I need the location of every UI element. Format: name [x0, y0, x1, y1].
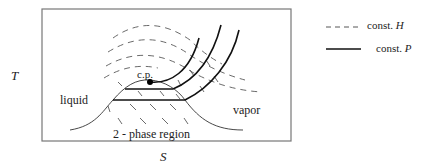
- hatch-ticks: [108, 60, 218, 124]
- vapor-label: vapor: [233, 103, 260, 117]
- x-axis-label: S: [160, 149, 167, 164]
- saturation-dome: [70, 80, 243, 130]
- critical-point-label: c.p.: [137, 68, 153, 80]
- ts-diagram: c.p. liquid vapor 2 - phase region T S c…: [0, 0, 432, 166]
- legend: const. H const. P: [326, 19, 412, 54]
- two-phase-label: 2 - phase region: [113, 127, 190, 141]
- y-axis-label: T: [11, 68, 19, 83]
- liquid-label: liquid: [60, 93, 88, 107]
- plot-frame: [42, 9, 291, 141]
- legend-label-p: const. P: [376, 42, 412, 54]
- legend-label-h: const. H: [367, 19, 405, 31]
